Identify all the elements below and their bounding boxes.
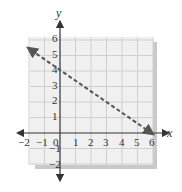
x-tick: 1: [73, 136, 79, 148]
y-tick: 1: [52, 110, 58, 122]
x-tick: 3: [103, 136, 109, 148]
x-tick: 5: [134, 136, 140, 148]
y-tick: 6: [52, 32, 58, 44]
x-tick: 2: [88, 136, 94, 148]
y-tick: −2: [49, 158, 61, 170]
y-tick: −1: [49, 142, 61, 154]
x-tick: −1: [36, 136, 48, 148]
x-tick: −2: [18, 136, 30, 148]
x-tick: 6: [149, 136, 155, 148]
y-axis-label: y: [55, 6, 62, 20]
y-tick: 5: [52, 48, 58, 60]
x-tick: 4: [119, 136, 125, 148]
y-tick: 4: [52, 63, 58, 75]
coordinate-plane-chart: y x −2 −1 0 1 2 3 4 5 6 6 5 4 3 2 1 −1 −…: [0, 0, 182, 192]
y-tick: 3: [52, 79, 58, 91]
x-axis-label: x: [166, 126, 173, 140]
y-tick: 2: [52, 94, 58, 106]
